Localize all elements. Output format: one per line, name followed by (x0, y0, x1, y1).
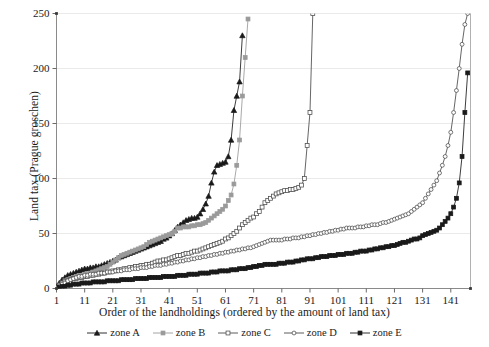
open-circle-data-point (446, 144, 450, 148)
filled-triangle-data-point (231, 108, 236, 113)
filled-square-data-point (452, 205, 456, 209)
open-square-data-point (260, 205, 264, 209)
open-circle-data-point (443, 155, 447, 159)
open-circle-data-point (463, 23, 467, 27)
open-square-data-point (305, 144, 309, 148)
filled-square-data-point (449, 212, 453, 216)
y-axis-tick-label: 0 (16, 283, 50, 294)
open-square-marker (218, 328, 238, 338)
x-axis-tick-label: 141 (431, 295, 471, 306)
legend-item-label: zone D (307, 327, 337, 338)
chart-figure: Land tax (Prague groschen) 0501001502002… (0, 0, 489, 347)
open-circle-data-point (423, 196, 427, 200)
filled-square-data-point (224, 204, 228, 208)
legend-item-label: zone A (110, 327, 139, 338)
open-circle-data-point (454, 89, 458, 93)
open-circle-data-point (460, 42, 464, 46)
open-square-data-point (308, 111, 312, 115)
filled-square-data-point (232, 182, 236, 186)
filled-square-data-point (235, 163, 239, 167)
legend-item-zone-b[interactable]: zone B (153, 327, 205, 338)
open-circle-data-point (421, 201, 425, 205)
series-line (57, 2, 313, 288)
y-axis-tick-label: 150 (16, 118, 50, 129)
filled-square-data-point (358, 331, 362, 335)
open-circle-data-point (438, 171, 442, 175)
filled-triangle-data-point (200, 207, 205, 212)
open-square-data-point (311, 12, 315, 16)
legend-item-label: zone E (373, 327, 402, 338)
filled-square-data-point (460, 155, 464, 159)
legend-item-zone-d[interactable]: zone D (284, 327, 337, 338)
open-circle-data-point (457, 67, 461, 71)
open-circle-data-point (466, 12, 470, 16)
filled-square-data-point (457, 181, 461, 185)
filled-square-data-point (463, 111, 467, 115)
legend-item-zone-e[interactable]: zone E (350, 327, 402, 338)
open-circle-marker (284, 328, 304, 338)
filled-square-data-point (446, 216, 450, 220)
filled-square-data-point (229, 193, 233, 197)
filled-square-data-point (246, 17, 250, 21)
legend-item-label: zone B (176, 327, 205, 338)
filled-triangle-data-point (212, 169, 217, 174)
y-axis-tick-label: 200 (16, 63, 50, 74)
y-axis-tick-label: 50 (16, 228, 50, 239)
axis-end-cap (469, 287, 472, 290)
open-square-data-point (300, 183, 304, 187)
legend-item-zone-c[interactable]: zone C (218, 327, 270, 338)
legend-item-label: zone C (241, 327, 270, 338)
filled-square-data-point (454, 196, 458, 200)
open-circle-data-point (429, 188, 433, 192)
open-circle-data-point (426, 192, 430, 196)
open-square-data-point (226, 331, 230, 335)
y-axis-tick-label: 100 (16, 173, 50, 184)
axis-end-cap (55, 12, 58, 15)
filled-square-marker (350, 328, 370, 338)
filled-triangle-data-point (206, 193, 211, 198)
open-circle-data-point (449, 130, 453, 134)
filled-triangle-data-point (240, 33, 245, 38)
open-circle-data-point (435, 179, 439, 183)
filled-triangle-data-point (234, 93, 239, 98)
filled-square-data-point (243, 56, 247, 60)
series-zone-d (55, 2, 470, 290)
x-axis-title: Order of the landholdings (ordered by th… (0, 306, 489, 318)
open-circle-data-point (432, 183, 436, 187)
filled-square-data-point (238, 138, 242, 142)
filled-triangle-data-point (226, 154, 231, 159)
series-line (57, 19, 249, 287)
filled-triangle-data-point (228, 137, 233, 142)
filled-square-data-point (226, 199, 230, 203)
legend-item-zone-a[interactable]: zone A (87, 327, 139, 338)
open-circle-data-point (292, 331, 296, 335)
filled-square-data-point (466, 71, 470, 75)
open-square-data-point (257, 210, 261, 214)
chart-legend: zone Azone Bzone Czone Dzone E (0, 327, 489, 338)
series-zone-c (55, 2, 315, 290)
axis-end-cap (55, 287, 58, 290)
filled-triangle-marker (87, 328, 107, 338)
filled-square-marker (153, 328, 173, 338)
filled-square-data-point (240, 94, 244, 98)
filled-square-data-point (161, 331, 165, 335)
y-axis-tick-label: 250 (16, 8, 50, 19)
series-zone-b (55, 17, 250, 289)
open-circle-data-point (452, 111, 456, 115)
series-zone-a (54, 33, 245, 289)
open-circle-data-point (440, 163, 444, 167)
open-square-data-point (302, 177, 306, 181)
filled-triangle-data-point (203, 201, 208, 206)
filled-triangle-data-point (237, 79, 242, 84)
filled-triangle-data-point (209, 180, 214, 185)
